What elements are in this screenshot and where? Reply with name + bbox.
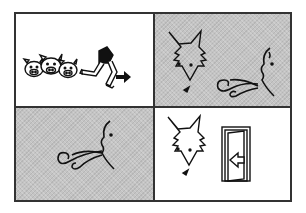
panel-pigs-run [16,14,154,107]
wolf-face-icon [169,31,206,92]
wolf-face-icon [168,116,205,175]
panel-wolf-blows [154,14,290,107]
running-legs-icon [80,47,117,88]
blowing-face-wind-icon [58,121,114,169]
blowing-face-icon [218,48,274,97]
panel-wolf-enters [154,107,290,200]
panel-blowing [16,107,154,200]
story-grid [14,12,292,202]
three-pigs-icon [24,54,77,78]
arrow-right-icon [116,71,131,83]
door-enter-icon [222,127,250,181]
grid-divider-horizontal [16,106,290,108]
